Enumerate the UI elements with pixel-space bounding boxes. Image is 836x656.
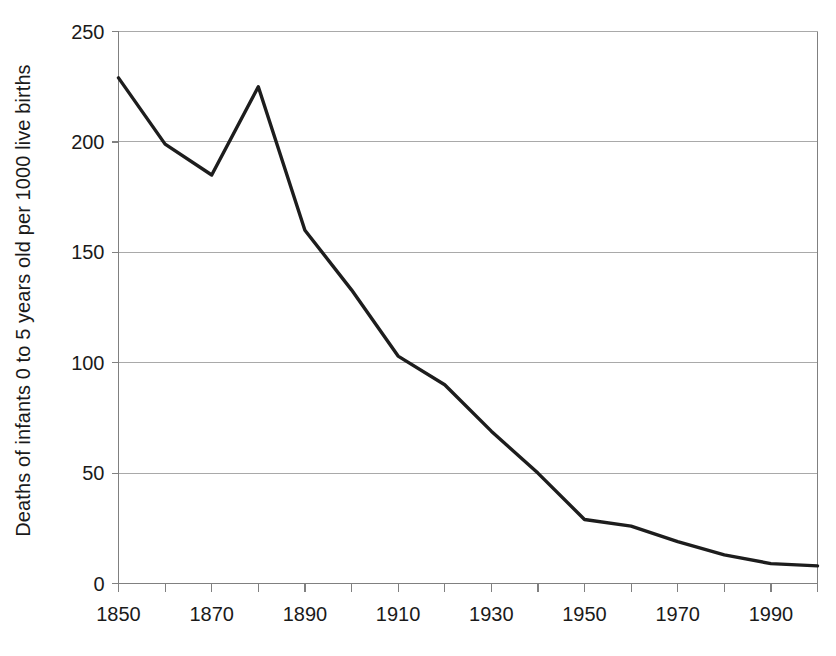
y-tick-label-0: 0 xyxy=(93,573,104,595)
x-tick-label-1970: 1970 xyxy=(655,603,700,625)
chart-figure: Deaths of infants 0 to 5 years old per 1… xyxy=(0,0,836,656)
y-tick-label-250: 250 xyxy=(71,21,104,43)
x-tick-labels-group: 18501870189019101930195019701990 xyxy=(96,603,793,625)
x-tick-label-1990: 1990 xyxy=(749,603,794,625)
x-tick-label-1850: 1850 xyxy=(96,603,141,625)
y-tick-label-200: 200 xyxy=(71,131,104,153)
x-axis-group xyxy=(119,32,818,592)
x-tick-label-1870: 1870 xyxy=(189,603,234,625)
y-tick-labels-group: 050100150200250 xyxy=(71,21,104,595)
line-chart-plot: 050100150200250 185018701890191019301950… xyxy=(0,0,836,656)
x-tick-label-1950: 1950 xyxy=(562,603,607,625)
y-tick-label-100: 100 xyxy=(71,352,104,374)
gridlines-group xyxy=(112,32,818,584)
y-tick-label-50: 50 xyxy=(82,462,104,484)
data-series-group xyxy=(119,78,818,566)
x-tick-label-1890: 1890 xyxy=(283,603,328,625)
y-tick-label-150: 150 xyxy=(71,241,104,263)
x-tick-label-1910: 1910 xyxy=(376,603,421,625)
data-series-line-0 xyxy=(119,78,818,566)
x-tick-label-1930: 1930 xyxy=(469,603,514,625)
